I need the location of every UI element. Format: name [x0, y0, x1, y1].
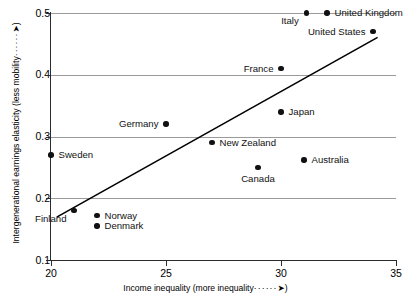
y-axis-title-text: Intergenerational earnings elasticity (l… — [11, 56, 21, 243]
data-point-label: Sweden — [59, 150, 94, 160]
data-point — [324, 10, 329, 15]
trend-line — [57, 37, 378, 217]
data-point-label: Japan — [289, 107, 315, 117]
data-point-label: Australia — [312, 155, 349, 165]
scatter-chart: 0.50.40.30.20.1 20253035 SwedenFinlandNo… — [0, 0, 411, 301]
x-axis-title-suffix: ) — [285, 283, 288, 293]
x-axis-arrow-icon: ➤ — [278, 283, 285, 293]
data-point-label: France — [244, 64, 274, 74]
data-point — [255, 165, 260, 170]
data-point-label: Germany — [119, 119, 158, 129]
y-axis-leader-dots: ······ — [11, 33, 21, 57]
data-point-label: Finland — [35, 214, 66, 224]
data-point — [209, 140, 214, 145]
x-axis-title-text: Income inequality (more inequality — [123, 283, 253, 293]
data-point-label: Denmark — [105, 221, 144, 231]
data-point — [71, 208, 76, 213]
data-point — [301, 157, 306, 162]
data-point — [48, 152, 53, 157]
data-point — [163, 121, 168, 126]
y-axis-title: Intergenerational earnings elasticity (l… — [11, 8, 21, 258]
data-point — [370, 29, 375, 34]
data-point-label: United Kingdom — [335, 8, 403, 18]
data-point — [278, 66, 283, 71]
x-axis-title: Income inequality (more inequality······… — [0, 283, 411, 293]
data-point-label: United States — [308, 27, 366, 37]
data-point-label: New Zealand — [220, 138, 277, 148]
y-axis-title-suffix: ) — [11, 22, 21, 25]
data-point-label: Canada — [241, 174, 275, 184]
data-point — [304, 10, 309, 15]
data-point — [94, 223, 99, 228]
x-axis-leader-dots: ······ — [254, 283, 278, 293]
data-point-label: Italy — [281, 16, 299, 26]
data-point-label: Norway — [105, 211, 138, 221]
data-point — [94, 213, 99, 218]
data-point — [278, 109, 283, 114]
y-axis-arrow-icon: ➤ — [11, 25, 21, 32]
